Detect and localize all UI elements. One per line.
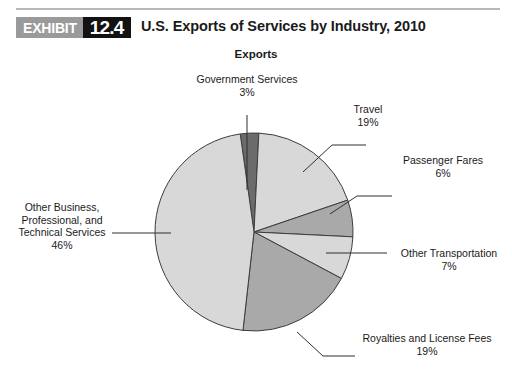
exhibit-badge: EXHIBIT 12.4 bbox=[16, 17, 131, 38]
slice-label-name-line3: Technical Services bbox=[10, 226, 114, 239]
slice-label-percent: 19% bbox=[337, 116, 399, 129]
slice-label-travel: Travel 19% bbox=[337, 103, 399, 128]
page-title: U.S. Exports of Services by Industry, 20… bbox=[141, 18, 426, 34]
slice-label-percent: 7% bbox=[389, 260, 509, 273]
pie-slice-group bbox=[155, 133, 353, 331]
slice-label-government-services: Government Services 3% bbox=[184, 73, 310, 98]
leader-line-royalties bbox=[297, 332, 355, 356]
slice-label-other-business: Other Business, Professional, and Techni… bbox=[10, 201, 114, 251]
exhibit-tag-label: EXHIBIT bbox=[16, 17, 83, 38]
slice-label-percent: 3% bbox=[184, 86, 310, 99]
exhibit-number-label: 12.4 bbox=[83, 17, 131, 38]
slice-label-percent: 6% bbox=[395, 167, 491, 180]
slice-label-name: Other Transportation bbox=[389, 247, 509, 260]
slice-label-name: Travel bbox=[337, 103, 399, 116]
slice-label-royalties: Royalties and License Fees 19% bbox=[352, 332, 502, 357]
slice-label-name: Royalties and License Fees bbox=[352, 332, 502, 345]
pie-slice bbox=[155, 134, 254, 330]
pie-chart-figure: Exports Government Services 3% Travel 19… bbox=[0, 40, 512, 370]
slice-label-name: Passenger Fares bbox=[395, 154, 491, 167]
slice-label-name: Government Services bbox=[184, 73, 310, 86]
slice-label-percent: 46% bbox=[10, 239, 114, 252]
slice-label-percent: 19% bbox=[352, 345, 502, 358]
slice-label-other-transportation: Other Transportation 7% bbox=[389, 247, 509, 272]
slice-label-name-line2: Professional, and bbox=[10, 214, 114, 227]
slice-label-passenger-fares: Passenger Fares 6% bbox=[395, 154, 491, 179]
header-divider bbox=[16, 8, 500, 10]
slice-label-name-line1: Other Business, bbox=[10, 201, 114, 214]
